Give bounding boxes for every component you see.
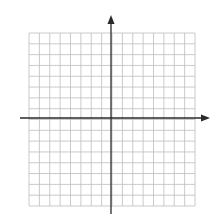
x-axis-arrow-icon <box>201 115 210 122</box>
grid-lines <box>29 33 195 206</box>
coordinate-plane <box>0 0 220 224</box>
y-axis-arrow-icon <box>108 15 115 24</box>
